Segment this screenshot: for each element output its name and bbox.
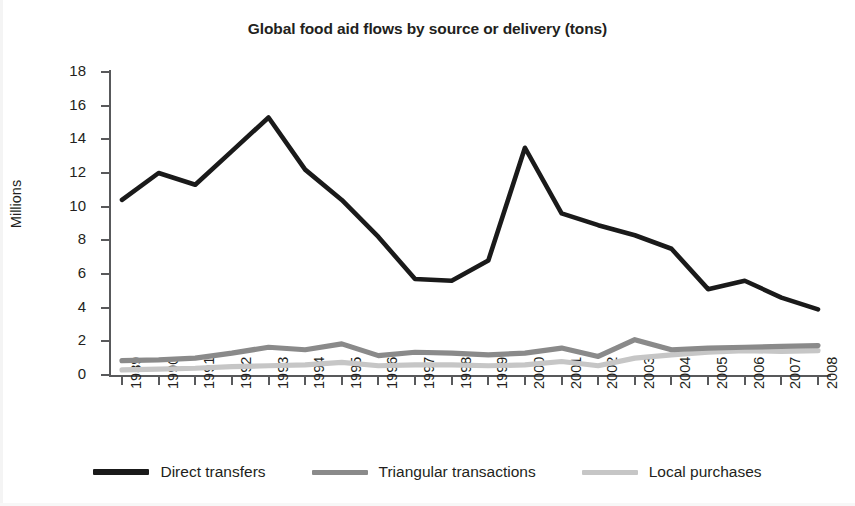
legend-swatch-icon — [93, 469, 149, 475]
chart-title: Global food aid flows by source or deliv… — [0, 20, 855, 38]
x-tick — [121, 377, 123, 385]
x-tick — [744, 377, 746, 385]
x-tick — [670, 377, 672, 385]
y-tick-label: 10 — [52, 197, 86, 214]
x-tick — [451, 377, 453, 385]
y-tick-label: 2 — [52, 331, 86, 348]
y-tick-label: 0 — [52, 365, 86, 382]
x-tick — [377, 377, 379, 385]
x-tick — [414, 377, 416, 385]
legend-label: Local purchases — [649, 463, 762, 481]
scan-edge — [0, 0, 3, 506]
legend-item[interactable]: Triangular transactions — [312, 463, 536, 481]
x-tick — [158, 377, 160, 385]
y-tick-label: 8 — [52, 230, 86, 247]
x-tick — [268, 377, 270, 385]
series-line — [122, 340, 818, 361]
x-tick — [524, 377, 526, 385]
x-tick — [817, 377, 819, 385]
y-tick-label: 6 — [52, 264, 86, 281]
series-line — [122, 117, 818, 309]
y-tick-label: 14 — [52, 129, 86, 146]
legend-item[interactable]: Direct transfers — [93, 463, 265, 481]
x-tick — [597, 377, 599, 385]
x-tick — [341, 377, 343, 385]
y-tick-label: 16 — [52, 96, 86, 113]
y-axis-title: Millions — [8, 180, 24, 228]
legend-swatch-icon — [312, 470, 368, 475]
legend-label: Triangular transactions — [379, 463, 536, 481]
x-tick — [194, 377, 196, 385]
legend-label: Direct transfers — [160, 463, 265, 481]
y-tick-label: 12 — [52, 163, 86, 180]
x-tick — [634, 377, 636, 385]
y-tick-label: 4 — [52, 298, 86, 315]
chart-legend: Direct transfersTriangular transactionsL… — [0, 455, 855, 489]
legend-item[interactable]: Local purchases — [582, 463, 762, 481]
x-tick — [231, 377, 233, 385]
series-plot — [110, 72, 830, 375]
x-tick — [780, 377, 782, 385]
y-tick-label: 18 — [52, 62, 86, 79]
y-axis-labels: 024681012141618 — [48, 0, 86, 506]
x-tick — [561, 377, 563, 385]
x-tick — [707, 377, 709, 385]
chart-figure: Global food aid flows by source or deliv… — [0, 0, 855, 506]
x-tick — [487, 377, 489, 385]
legend-swatch-icon — [582, 470, 638, 475]
x-tick — [304, 377, 306, 385]
